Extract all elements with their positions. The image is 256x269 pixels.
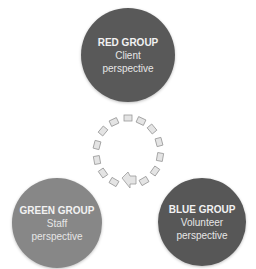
blue-group-line2: perspective (176, 229, 227, 242)
green-group-line2: perspective (31, 230, 82, 243)
blue-group-title: BLUE GROUP (169, 203, 236, 216)
blue-group-line1: Volunteer (181, 216, 223, 229)
red-group-title: RED GROUP (98, 36, 159, 49)
green-group-line1: Staff (47, 217, 67, 230)
red-group-node: RED GROUP Client perspective (81, 8, 175, 102)
green-group-node: GREEN GROUP Staff perspective (12, 178, 102, 268)
blue-group-node: BLUE GROUP Volunteer perspective (158, 178, 246, 266)
red-group-line1: Client (115, 49, 141, 62)
green-group-title: GREEN GROUP (19, 204, 94, 217)
circular-arrow-cycle-icon (86, 112, 172, 198)
red-group-line2: perspective (102, 62, 153, 75)
